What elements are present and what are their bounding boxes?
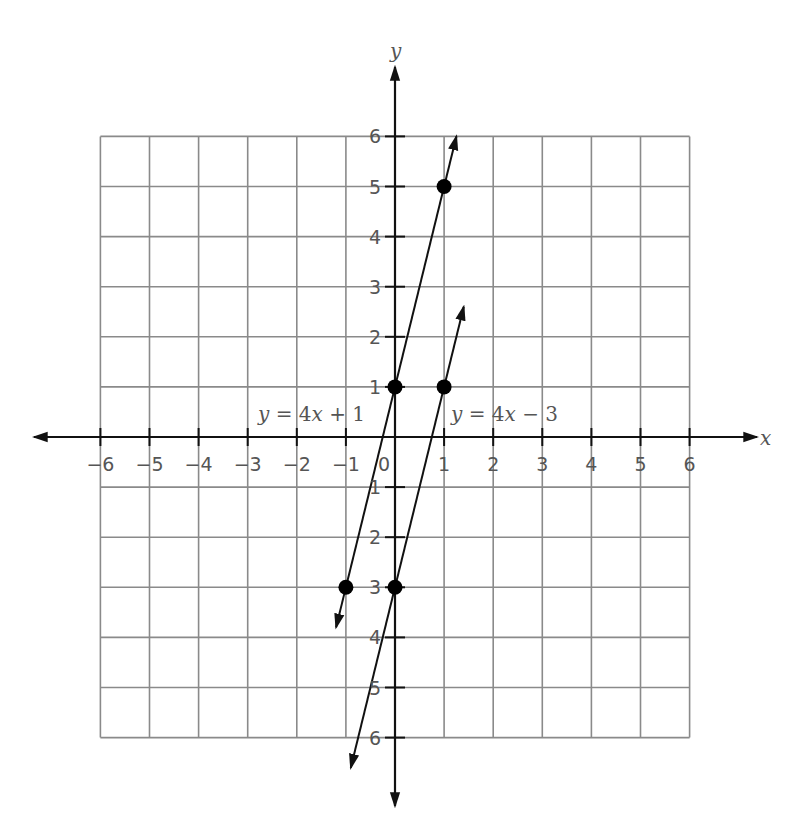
x-axis-label: x [760,426,771,450]
y-tick-label: 4 [369,226,381,248]
y-tick-label: 1 [369,476,381,498]
y-tick-label: 3 [369,576,381,598]
x-tick-label: 1 [438,453,450,475]
data-point [388,580,403,595]
coordinate-plane: −6−5−4−3−2−10123456654321123456 x y y = … [0,0,796,826]
y-tick-label: 3 [369,276,381,298]
x-tick-label: −3 [234,453,262,475]
y-tick-label: 4 [369,626,381,648]
x-tick-label: −4 [185,453,213,475]
equation-label-line2: y = 4x − 3 [450,402,558,426]
y-tick-label: 1 [369,376,381,398]
x-tick-label: 2 [487,453,499,475]
data-point [338,580,353,595]
y-axis-label: y [389,39,402,63]
equation-label-line1: y = 4x + 1 [257,402,365,426]
data-point [437,379,452,394]
data-point [388,379,403,394]
y-tick-label: 6 [369,727,381,749]
x-tick-label: 5 [634,453,646,475]
x-tick-label: −1 [332,453,360,475]
x-tick-label: 4 [585,453,597,475]
x-tick-label: 6 [684,453,696,475]
data-point [437,179,452,194]
y-tick-label: 2 [369,526,381,548]
y-tick-label: 6 [369,125,381,147]
y-tick-label: 5 [369,176,381,198]
y-tick-label: 2 [369,326,381,348]
y-tick-label: 5 [369,677,381,699]
axes [34,67,757,806]
x-tick-label: −5 [135,453,163,475]
x-tick-label: −6 [86,453,114,475]
x-tick-label: −2 [283,453,311,475]
x-tick-label: 3 [536,453,548,475]
x-tick-label: 0 [378,453,390,475]
